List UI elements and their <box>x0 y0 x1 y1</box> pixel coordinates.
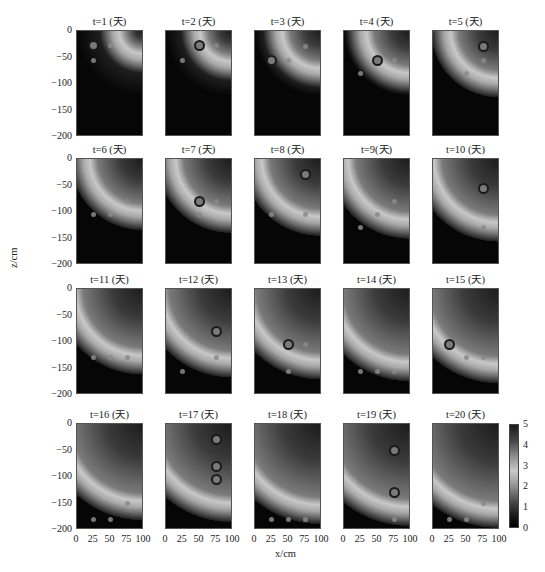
concentration-field <box>344 31 409 135</box>
highlighted-sensor-marker <box>372 55 383 66</box>
x-tick-label: 100 <box>487 534 511 544</box>
y-tick-label: −100 <box>42 78 72 88</box>
panel-title: t=17 (天) <box>154 409 244 421</box>
concentration-field <box>77 424 142 528</box>
colorbar-tick-label: 3 <box>523 461 528 471</box>
y-tick-label: −150 <box>42 363 72 373</box>
sensor-marker <box>303 517 308 522</box>
sensor-marker <box>392 58 397 63</box>
concentration-field <box>344 424 409 528</box>
sensor-marker <box>464 517 469 522</box>
y-tick-label: −100 <box>42 206 72 216</box>
y-tick-label: −200 <box>42 524 72 534</box>
sensor-marker <box>303 342 308 347</box>
panel-title: t=12 (天) <box>154 274 244 286</box>
heatmap-panel <box>343 288 410 394</box>
concentration-field <box>255 424 320 528</box>
heatmap-panel <box>76 423 143 529</box>
sensor-marker <box>286 58 291 63</box>
y-tick-label: −150 <box>42 498 72 508</box>
x-tick-label: 100 <box>220 534 244 544</box>
highlighted-sensor-marker <box>194 196 205 207</box>
panel-title: t=1 (天) <box>65 16 155 28</box>
sensor-marker <box>481 58 486 63</box>
concentration-field <box>77 289 142 393</box>
colorbar <box>509 424 519 528</box>
x-axis-label: x/cm <box>275 548 296 559</box>
heatmap-panel <box>432 423 499 529</box>
heatmap-panel <box>432 30 499 136</box>
heatmap-panel <box>165 158 232 264</box>
panel-title: t=9(天) <box>332 144 422 156</box>
concentration-field <box>166 289 231 393</box>
panel-title: t=13 (天) <box>243 274 333 286</box>
colorbar-tick-label: 4 <box>523 440 528 450</box>
colorbar-tick-label: 1 <box>523 502 528 512</box>
highlighted-sensor-marker <box>211 474 222 485</box>
heatmap-panel <box>76 30 143 136</box>
sensor-marker <box>375 369 380 374</box>
panel-title: t=16 (天) <box>65 409 155 421</box>
y-tick-label: −50 <box>42 310 72 320</box>
concentration-field <box>433 159 498 263</box>
heatmap-panel <box>254 30 321 136</box>
concentration-field <box>433 289 498 393</box>
panel-title: t=19 (天) <box>332 409 422 421</box>
panel-title: t=5 (天) <box>421 16 511 28</box>
y-tick-label: −150 <box>42 233 72 243</box>
sensor-marker <box>303 212 308 217</box>
panel-title: t=4 (天) <box>332 16 422 28</box>
panel-title: t=2 (天) <box>154 16 244 28</box>
panel-title: t=14 (天) <box>332 274 422 286</box>
y-tick-label: −100 <box>42 471 72 481</box>
panel-title: t=6 (天) <box>65 144 155 156</box>
panel-title: t=15 (天) <box>421 274 511 286</box>
y-tick-label: 0 <box>42 283 72 293</box>
highlighted-sensor-marker <box>211 326 222 337</box>
panel-title: t=20 (天) <box>421 409 511 421</box>
highlighted-sensor-marker <box>266 55 277 66</box>
y-axis-label: z/cm <box>8 248 19 268</box>
x-tick-label: 100 <box>309 534 333 544</box>
colorbar-tick-label: 5 <box>523 419 528 429</box>
panel-title: t=10 (天) <box>421 144 511 156</box>
x-tick-label: 100 <box>131 534 155 544</box>
y-tick-label: −50 <box>42 52 72 62</box>
sensor-marker <box>392 517 397 522</box>
colorbar-tick-label: 0 <box>523 523 528 533</box>
highlighted-sensor-marker <box>211 461 222 472</box>
heatmap-panel <box>432 288 499 394</box>
y-tick-label: −200 <box>42 131 72 141</box>
panel-title: t=3 (天) <box>243 16 333 28</box>
y-tick-label: −50 <box>42 180 72 190</box>
y-tick-label: −200 <box>42 259 72 269</box>
heatmap-panel <box>165 30 232 136</box>
sensor-marker <box>464 71 469 76</box>
heatmap-panel <box>165 288 232 394</box>
concentration-field <box>433 424 498 528</box>
heatmap-panel <box>76 158 143 264</box>
panel-title: t=18 (天) <box>243 409 333 421</box>
sensor-marker <box>481 501 486 506</box>
heatmap-panel <box>254 158 321 264</box>
highlighted-sensor-marker <box>389 445 400 456</box>
heatmap-panel <box>254 423 321 529</box>
heatmap-panel <box>165 423 232 529</box>
sensor-marker <box>392 369 397 374</box>
panel-title: t=8 (天) <box>243 144 333 156</box>
concentration-field <box>255 31 320 135</box>
highlighted-sensor-marker <box>478 183 489 194</box>
heatmap-panel <box>432 158 499 264</box>
concentration-field <box>166 159 231 263</box>
heatmap-panel <box>254 288 321 394</box>
y-tick-label: 0 <box>42 418 72 428</box>
sensor-marker <box>392 199 397 204</box>
sensor-marker <box>214 199 219 204</box>
sensor-marker <box>91 58 96 63</box>
x-tick-label: 100 <box>398 534 422 544</box>
y-tick-label: −200 <box>42 389 72 399</box>
heatmap-panel <box>76 288 143 394</box>
concentration-field <box>344 289 409 393</box>
panel-title: t=11 (天) <box>65 274 155 286</box>
sensor-marker <box>125 501 130 506</box>
